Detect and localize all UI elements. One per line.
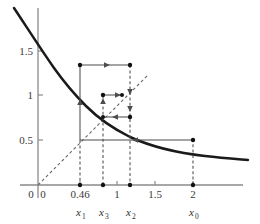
x-axis-origin-label: 0 [40,188,46,200]
axis-point-x2 [128,183,132,187]
arrow-left-x2-to-x3 [112,114,118,120]
iterate-label-group: x 1 x 3 x 2 x 0 [75,206,199,221]
iterate-label-x2-sub: 2 [132,212,136,221]
arrow-up-x3 [100,98,106,104]
iterate-label-x0-sub: 0 [195,212,199,221]
point-x1-on-curve [78,63,82,67]
x-tick-label-2: 2 [190,188,196,200]
y-tick-label-1: 1 [28,89,34,101]
iterate-label-x1-base: x [75,206,81,218]
y-tick-label-1-5: 1.5 [19,45,33,57]
axis-point-x1 [78,183,82,187]
orbit-point-markers [78,63,195,187]
axes-group [20,8,243,198]
y-tick-marks [38,51,43,140]
cobweb-diagram-figure: 1.5 1 0.5 0 0 0.46 1 1.5 2 x 1 x 3 x 2 x… [0,0,260,224]
cobweb-path-group [80,65,193,185]
x-tick-label-0-46: 0.46 [70,188,90,200]
arrow-right-upper [104,62,110,68]
axis-point-x3 [101,183,105,187]
x-tick-label-1: 1 [114,188,120,200]
iterate-label-x3-sub: 3 [105,212,109,221]
point-x3-on-curve [101,93,105,97]
iterate-label-x3-base: x [98,206,104,218]
y-tick-label-0-5: 0.5 [19,134,33,146]
iterate-label-x0-base: x [188,206,194,218]
y-axis-origin-label: 0 [28,188,34,200]
cobweb-plot-svg: 1.5 1 0.5 0 0 0.46 1 1.5 2 x 1 x 3 x 2 x… [0,0,260,224]
iterate-label-x2-base: x [125,206,131,218]
x-tick-label-1-5: 1.5 [148,188,162,200]
cobweb-arrowheads [77,62,138,143]
arrow-down-x2-lower [127,89,133,95]
arrow-down-x2 [127,106,133,112]
axis-point-x0 [191,183,195,187]
point-x2-on-curve [128,115,132,119]
point-x2-on-diagonal [101,115,105,119]
point-x3-on-diagonal [120,93,124,97]
point-x0-on-curve [191,138,195,142]
point-x1-on-diagonal [128,63,132,67]
iterate-label-x1-sub: 1 [82,212,86,221]
function-curve [14,8,248,160]
